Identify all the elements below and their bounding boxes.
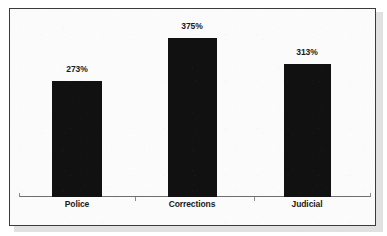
- plot-area: 273% Police 375% Corrections 313% Judici…: [0, 0, 387, 236]
- bar-value-judicial: 313%: [277, 47, 337, 57]
- bar-value-police: 273%: [47, 64, 107, 74]
- category-label-judicial: Judicial: [262, 199, 352, 209]
- category-label-police: Police: [32, 199, 122, 209]
- chart-screenshot: 273% Police 375% Corrections 313% Judici…: [0, 0, 387, 236]
- bar-judicial: [284, 64, 331, 197]
- x-axis-tick-2: [254, 197, 255, 201]
- x-axis-left-cap: [19, 193, 20, 197]
- bar-police: [52, 81, 102, 197]
- bar-value-corrections: 375%: [162, 21, 222, 31]
- category-label-corrections: Corrections: [147, 199, 237, 209]
- bar-corrections: [168, 38, 217, 197]
- x-axis-right-cap: [370, 193, 371, 197]
- x-axis-tick-1: [135, 197, 136, 201]
